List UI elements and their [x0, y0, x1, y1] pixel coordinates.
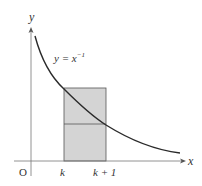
- tick-k-label: k: [60, 166, 66, 178]
- function-label: y = x−1: [53, 51, 85, 64]
- x-axis-label: x: [187, 154, 194, 168]
- upper-rectangle: [64, 88, 106, 161]
- tick-k-plus-1-label: k + 1: [93, 166, 116, 178]
- y-axis-label: y: [28, 10, 35, 24]
- diagram: y x O k k + 1 y = x−1: [0, 0, 202, 186]
- origin-label: O: [19, 166, 27, 178]
